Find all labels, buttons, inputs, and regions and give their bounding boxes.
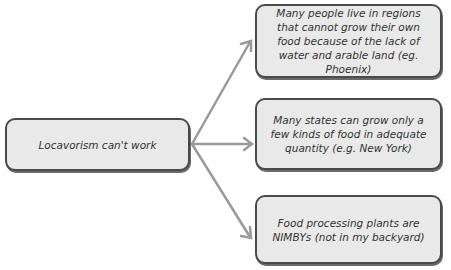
child-node-3-label: Food processing plants are NIMBYs (not i… (265, 216, 432, 244)
child-node-2: Many states can grow only a few kinds of… (255, 98, 442, 170)
child-node-2-label: Many states can grow only a few kinds of… (265, 113, 432, 155)
root-node: Locavorism can't work (5, 118, 190, 171)
child-node-1-label: Many people live in regions that cannot … (265, 6, 432, 76)
arrow-to-child-1 (192, 42, 250, 144)
child-node-3: Food processing plants are NIMBYs (not i… (255, 195, 442, 264)
root-node-label: Locavorism can't work (38, 138, 156, 152)
child-node-1: Many people live in regions that cannot … (255, 4, 442, 78)
arrow-to-child-3 (192, 144, 250, 237)
